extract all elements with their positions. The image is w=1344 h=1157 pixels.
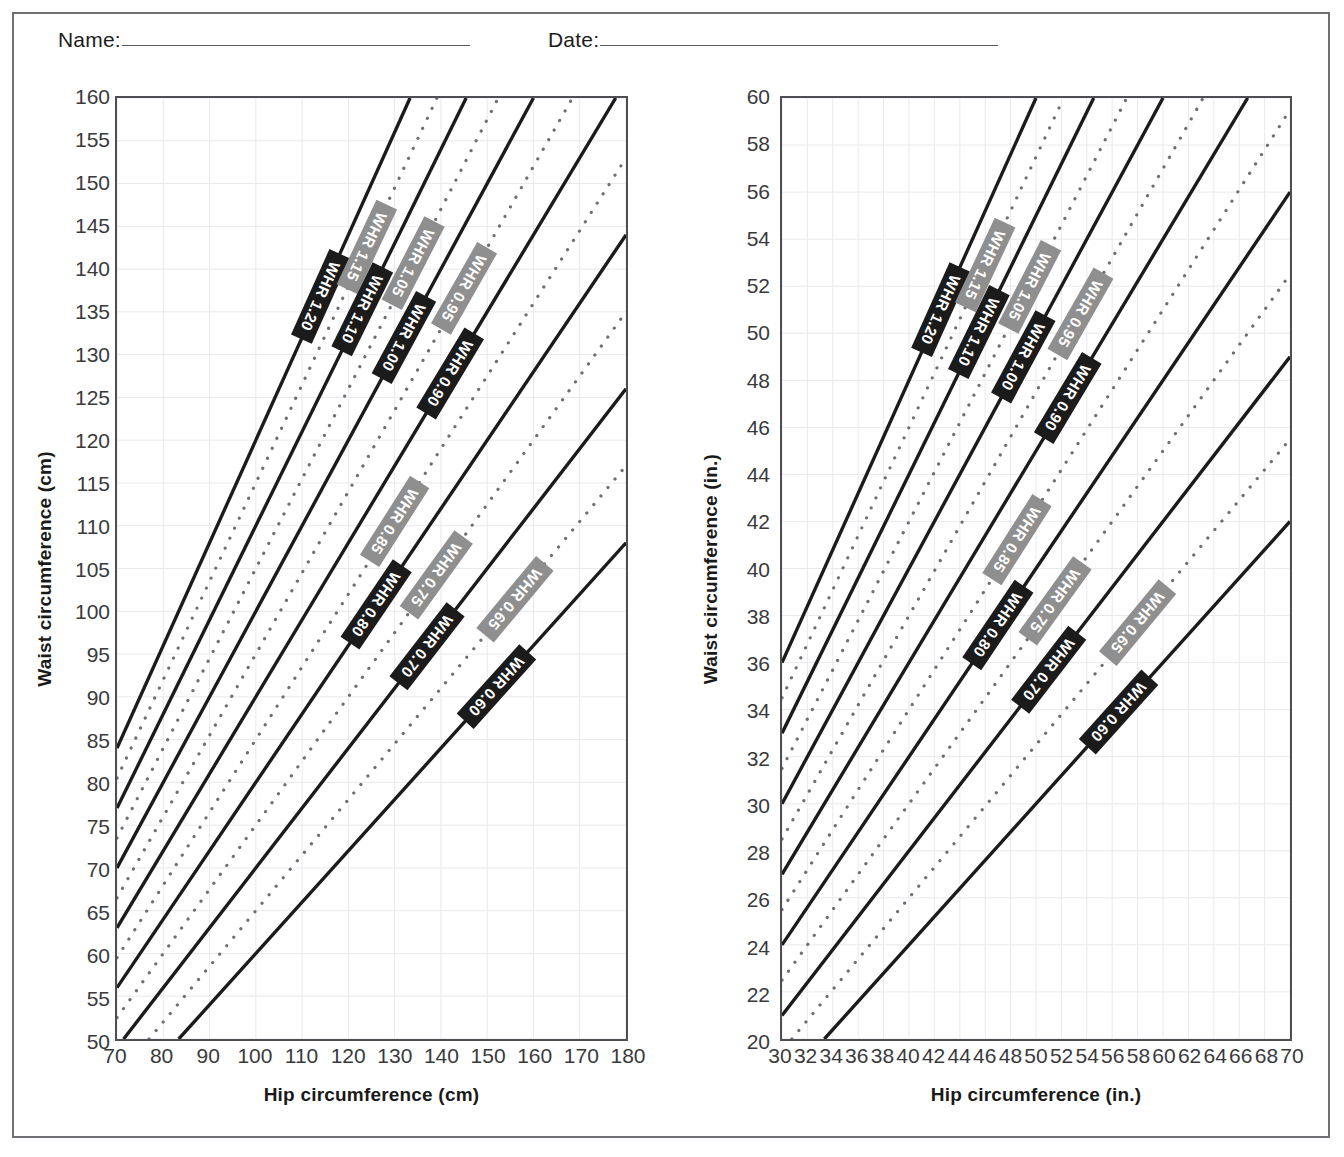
y-tick-label: 52 [747, 275, 770, 296]
y-tick-label: 54 [747, 227, 770, 248]
whr-label: WHR 0.70 [1011, 626, 1086, 714]
date-field[interactable]: Date: [548, 28, 998, 52]
y-tick-label: 55 [87, 988, 110, 1009]
whr-label: WHR 0.85 [982, 494, 1051, 585]
whr-label-text: WHR 0.75 [408, 540, 465, 610]
whr-label: WHR 0.90 [1034, 352, 1102, 444]
name-field[interactable]: Name: [58, 28, 470, 52]
x-tick-label: 44 [948, 1045, 971, 1066]
x-tick-label: 80 [150, 1045, 173, 1066]
x-tick-label: 62 [1178, 1045, 1201, 1066]
date-label: Date: [548, 28, 599, 52]
y-tick-label: 125 [75, 386, 110, 407]
whr-line [782, 98, 1163, 804]
y-tick-label: 150 [75, 171, 110, 192]
y-tick-label: 60 [747, 86, 770, 107]
y-tick-label: 40 [747, 558, 770, 579]
whr-label-text: WHR 0.90 [424, 337, 477, 409]
whr-label: WHR 0.80 [962, 580, 1033, 670]
y-tick-label: 48 [747, 369, 770, 390]
x-tick-label: 46 [973, 1045, 996, 1066]
y-axis-ticks-cm: 5055606570758085909510010511011512012513… [54, 96, 110, 1041]
plot-area-cm: WHR 1.20WHR 1.15WHR 1.10WHR 1.05WHR 1.00… [115, 96, 628, 1041]
whr-label-text: WHR 0.75 [1026, 566, 1083, 636]
whr-label: WHR 0.75 [400, 530, 473, 619]
x-tick-label: 170 [564, 1045, 599, 1066]
y-tick-label: 28 [747, 842, 770, 863]
y-tick-label: 30 [747, 794, 770, 815]
name-input-rule[interactable] [122, 44, 470, 46]
whr-line [117, 98, 437, 778]
x-tick-label: 34 [820, 1045, 843, 1066]
x-tick-label: 42 [922, 1045, 945, 1066]
whr-label-text: WHR 0.80 [348, 569, 404, 640]
x-tick-label: 38 [871, 1045, 894, 1066]
x-tick-label: 70 [103, 1045, 126, 1066]
y-tick-label: 80 [87, 773, 110, 794]
y-tick-label: 135 [75, 300, 110, 321]
y-tick-label: 65 [87, 902, 110, 923]
y-tick-label: 90 [87, 687, 110, 708]
y-tick-label: 145 [75, 214, 110, 235]
worksheet-page: Name: Date: Waist circumference (cm) 505… [0, 0, 1344, 1157]
whr-label-text: WHR 0.80 [970, 589, 1026, 660]
whr-line [782, 98, 1248, 874]
x-tick-label: 140 [424, 1045, 459, 1066]
x-tick-label: 56 [1101, 1045, 1124, 1066]
whr-label-text: WHR 1.00 [998, 320, 1048, 393]
x-tick-label: 40 [896, 1045, 919, 1066]
whr-label-text: WHR 1.10 [955, 295, 1003, 369]
whr-label-text: WHR 0.70 [398, 612, 457, 681]
whr-label: WHR 1.05 [382, 216, 445, 310]
x-tick-label: 52 [1050, 1045, 1073, 1066]
y-tick-label: 24 [747, 936, 770, 957]
x-tick-label: 60 [1152, 1045, 1175, 1066]
whr-line [117, 98, 410, 748]
y-tick-label: 34 [747, 700, 770, 721]
x-tick-label: 50 [1024, 1045, 1047, 1066]
x-tick-label: 36 [845, 1045, 868, 1066]
whr-line [782, 98, 1127, 768]
y-tick-label: 58 [747, 133, 770, 154]
y-tick-label: 100 [75, 601, 110, 622]
y-tick-label: 22 [747, 983, 770, 1004]
y-tick-label: 36 [747, 653, 770, 674]
whr-line [117, 312, 626, 1018]
plot-area-in: WHR 1.20WHR 1.15WHR 1.10WHR 1.05WHR 1.00… [780, 96, 1292, 1041]
y-tick-label: 42 [747, 511, 770, 532]
date-input-rule[interactable] [600, 44, 998, 46]
whr-line [117, 98, 572, 898]
y-tick-label: 46 [747, 416, 770, 437]
x-tick-label: 48 [999, 1045, 1022, 1066]
x-tick-label: 70 [1280, 1045, 1303, 1066]
name-label: Name: [58, 28, 121, 52]
y-axis-ticks-in: 2022242628303234363840424446485052545658… [714, 96, 770, 1041]
y-tick-label: 120 [75, 429, 110, 450]
x-tick-label: 90 [197, 1045, 220, 1066]
y-tick-label: 38 [747, 605, 770, 626]
x-tick-label: 130 [377, 1045, 412, 1066]
x-axis-ticks-in: 3032343638404244464850525456586062646668… [780, 1045, 1292, 1075]
whr-label-text: WHR 0.65 [485, 565, 546, 633]
whr-label-text: WHR 0.60 [465, 653, 527, 720]
y-tick-label: 56 [747, 180, 770, 201]
x-tick-label: 32 [794, 1045, 817, 1066]
header-fields: Name: Date: [0, 28, 1344, 72]
y-tick-label: 75 [87, 816, 110, 837]
x-tick-label: 58 [1127, 1045, 1150, 1066]
x-axis-title-cm: Hip circumference (cm) [115, 1084, 628, 1106]
y-tick-label: 140 [75, 257, 110, 278]
x-tick-label: 150 [471, 1045, 506, 1066]
y-tick-label: 110 [77, 515, 110, 536]
x-tick-label: 66 [1229, 1045, 1252, 1066]
whr-line [782, 98, 1203, 839]
x-tick-label: 30 [768, 1045, 791, 1066]
whr-label-text: WHR 0.90 [1041, 362, 1094, 434]
y-tick-label: 95 [87, 644, 110, 665]
y-tick-label: 60 [87, 945, 110, 966]
nomogram-svg-in: WHR 1.20WHR 1.15WHR 1.10WHR 1.05WHR 1.00… [782, 98, 1290, 1039]
whr-label: WHR 0.95 [1047, 268, 1113, 361]
y-tick-label: 20 [747, 1031, 770, 1052]
whr-label: WHR 0.75 [1018, 556, 1091, 645]
y-tick-label: 115 [77, 472, 110, 493]
